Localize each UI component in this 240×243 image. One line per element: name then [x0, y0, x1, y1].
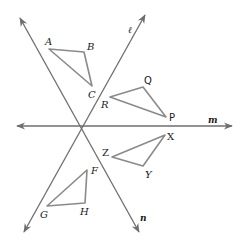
vertex-label-c: C: [88, 89, 96, 100]
vertex-label-y: Y: [145, 169, 153, 180]
triangle-pqr: [110, 87, 166, 117]
vertex-label-p: P: [169, 112, 175, 123]
vertex-label-g: G: [40, 209, 48, 220]
reflection-diagram: m ℓ n A B C Q R P X Y Z F G H: [0, 0, 240, 243]
vertex-label-x: X: [167, 131, 175, 142]
line-n: [20, 18, 139, 232]
vertex-label-f: F: [90, 165, 99, 176]
line-n-label: n: [140, 213, 147, 223]
vertex-label-b: B: [86, 41, 94, 52]
vertex-label-q: Q: [144, 75, 152, 86]
line-l-label: ℓ: [128, 25, 132, 35]
vertex-label-a: A: [44, 36, 52, 47]
line-m-label: m: [208, 115, 218, 125]
vertex-label-h: H: [79, 206, 89, 217]
vertex-label-r: R: [100, 99, 109, 110]
vertex-label-z: Z: [102, 147, 109, 158]
triangle-fgh: [47, 170, 87, 206]
triangle-xyz: [112, 135, 165, 166]
